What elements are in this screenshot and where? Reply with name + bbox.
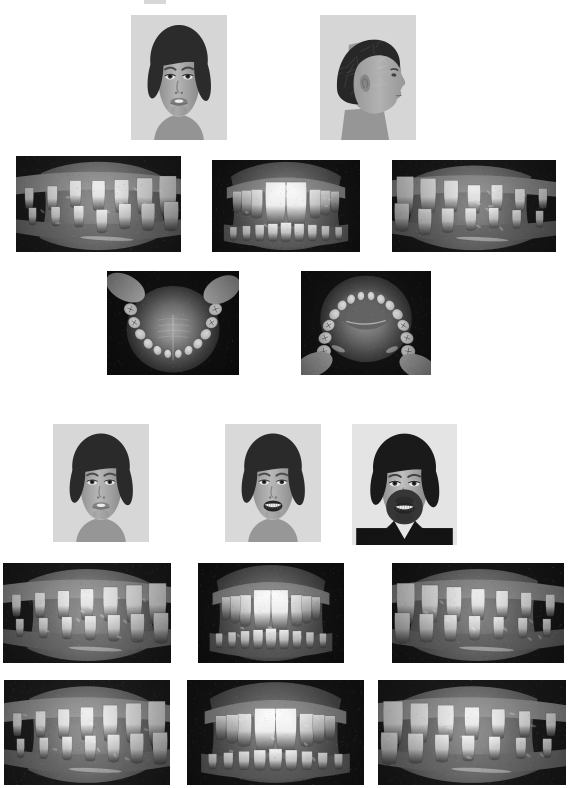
posttreatment-frontal-intraoral-photo-a xyxy=(198,563,344,663)
longterm-adult-face-photo xyxy=(352,424,457,545)
document-page xyxy=(0,0,572,788)
cropped-top-mark xyxy=(144,0,166,4)
pretreatment-right-buccal-photo xyxy=(16,156,181,252)
posttreatment-left-buccal-photo-a xyxy=(392,563,564,663)
pretreatment-frontal-intraoral-photo xyxy=(212,160,360,252)
longterm-adult-face-photo-image xyxy=(352,424,457,545)
posttreatment-smiling-face-photo xyxy=(225,424,321,542)
posttreatment-right-buccal-photo-a xyxy=(3,563,171,663)
longterm-frontal-intraoral-photo-image xyxy=(187,680,364,785)
pretreatment-right-buccal-photo-image xyxy=(16,156,181,252)
pretreatment-frontal-face-photo-image xyxy=(131,15,227,140)
posttreatment-smiling-face-photo-image xyxy=(225,424,321,542)
pretreatment-profile-face-photo xyxy=(320,15,416,140)
posttreatment-frontal-face-photo-image xyxy=(53,424,149,542)
posttreatment-frontal-intraoral-photo-a-image xyxy=(198,563,344,663)
pretreatment-maxillary-occlusal-photo xyxy=(107,271,239,375)
pretreatment-maxillary-occlusal-photo-image xyxy=(107,271,239,375)
pretreatment-frontal-face-photo xyxy=(131,15,227,140)
longterm-right-buccal-photo xyxy=(4,680,170,785)
pretreatment-left-buccal-photo-image xyxy=(392,160,556,252)
longterm-frontal-intraoral-photo xyxy=(187,680,364,785)
posttreatment-left-buccal-photo-a-image xyxy=(392,563,564,663)
pretreatment-mandibular-occlusal-photo-image xyxy=(301,271,431,375)
pretreatment-frontal-intraoral-photo-image xyxy=(212,160,360,252)
longterm-left-buccal-photo-image xyxy=(378,680,566,785)
longterm-left-buccal-photo xyxy=(378,680,566,785)
pretreatment-mandibular-occlusal-photo xyxy=(301,271,431,375)
pretreatment-profile-face-photo-image xyxy=(320,15,416,140)
pretreatment-left-buccal-photo xyxy=(392,160,556,252)
posttreatment-frontal-face-photo xyxy=(53,424,149,542)
posttreatment-right-buccal-photo-a-image xyxy=(3,563,171,663)
longterm-right-buccal-photo-image xyxy=(4,680,170,785)
